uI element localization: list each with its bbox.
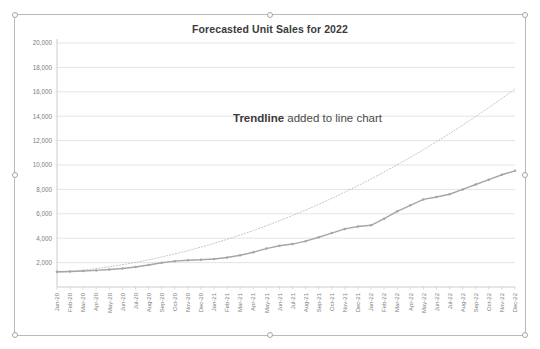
svg-text:Apr-22: Apr-22 bbox=[408, 292, 414, 311]
resize-handle-top-left-icon[interactable] bbox=[12, 12, 18, 18]
trendline-annotation: Trendline added to line chart bbox=[233, 112, 382, 124]
y-axis-tick-labels: 2,0004,0006,0008,00010,00012,00014,00016… bbox=[33, 39, 53, 266]
resize-handle-bottom-left-icon[interactable] bbox=[12, 332, 18, 338]
svg-text:10,000: 10,000 bbox=[33, 161, 53, 168]
svg-text:May-22: May-22 bbox=[421, 292, 427, 313]
annotation-strong-text: Trendline bbox=[233, 112, 284, 124]
svg-text:Sep-20: Sep-20 bbox=[159, 292, 165, 312]
svg-text:16,000: 16,000 bbox=[33, 88, 53, 95]
svg-text:Oct-20: Oct-20 bbox=[172, 292, 178, 311]
svg-text:18,000: 18,000 bbox=[33, 64, 53, 71]
svg-text:Aug-20: Aug-20 bbox=[146, 292, 152, 312]
svg-text:Dec-22: Dec-22 bbox=[512, 292, 518, 312]
svg-text:Apr-20: Apr-20 bbox=[93, 292, 99, 311]
svg-text:Feb-20: Feb-20 bbox=[67, 292, 73, 312]
svg-text:Mar-22: Mar-22 bbox=[394, 292, 400, 312]
plot-area[interactable]: 2,0004,0006,0008,00010,00012,00014,00016… bbox=[15, 15, 525, 335]
chart-object[interactable]: Forecasted Unit Sales for 2022 2,0004,00… bbox=[14, 14, 526, 336]
svg-text:Feb-22: Feb-22 bbox=[381, 292, 387, 312]
resize-handle-bottom-right-icon[interactable] bbox=[522, 332, 528, 338]
svg-text:May-21: May-21 bbox=[264, 292, 270, 313]
svg-text:Jul-22: Jul-22 bbox=[447, 292, 453, 309]
svg-text:Jul-20: Jul-20 bbox=[133, 292, 139, 309]
svg-text:Apr-21: Apr-21 bbox=[250, 292, 256, 311]
svg-text:Feb-21: Feb-21 bbox=[224, 292, 230, 312]
svg-text:May-20: May-20 bbox=[107, 292, 113, 313]
svg-text:2,000: 2,000 bbox=[36, 259, 52, 266]
resize-handle-top-center-icon[interactable] bbox=[267, 12, 273, 18]
gridlines bbox=[57, 43, 515, 263]
svg-text:Sep-22: Sep-22 bbox=[473, 292, 479, 312]
svg-text:12,000: 12,000 bbox=[33, 137, 53, 144]
svg-text:20,000: 20,000 bbox=[33, 39, 53, 46]
svg-text:Nov-20: Nov-20 bbox=[185, 292, 191, 312]
x-axis-tick-labels: Jan-20Feb-20Mar-20Apr-20May-20Jun-20Jul-… bbox=[54, 287, 518, 313]
svg-text:Nov-21: Nov-21 bbox=[342, 292, 348, 312]
svg-text:Mar-21: Mar-21 bbox=[237, 292, 243, 312]
resize-handle-right-middle-icon[interactable] bbox=[522, 172, 528, 178]
svg-text:Jun-20: Jun-20 bbox=[120, 292, 126, 311]
svg-text:Jul-21: Jul-21 bbox=[290, 292, 296, 309]
resize-handle-top-right-icon[interactable] bbox=[522, 12, 528, 18]
svg-text:Jun-22: Jun-22 bbox=[434, 292, 440, 311]
svg-text:Nov-22: Nov-22 bbox=[499, 292, 505, 312]
svg-text:Dec-21: Dec-21 bbox=[355, 292, 361, 312]
svg-text:Dec-20: Dec-20 bbox=[198, 292, 204, 312]
svg-text:8,000: 8,000 bbox=[36, 186, 52, 193]
svg-text:Jan-22: Jan-22 bbox=[368, 292, 374, 311]
svg-text:Oct-21: Oct-21 bbox=[329, 292, 335, 311]
chart-canvas: 2,0004,0006,0008,00010,00012,00014,00016… bbox=[15, 15, 527, 337]
svg-text:Jan-20: Jan-20 bbox=[54, 292, 60, 311]
svg-text:Mar-20: Mar-20 bbox=[80, 292, 86, 312]
svg-text:Jun-21: Jun-21 bbox=[277, 292, 283, 311]
svg-text:Aug-22: Aug-22 bbox=[460, 292, 466, 312]
svg-text:4,000: 4,000 bbox=[36, 235, 52, 242]
resize-handle-bottom-center-icon[interactable] bbox=[267, 332, 273, 338]
data-series-line[interactable] bbox=[57, 171, 515, 272]
svg-text:14,000: 14,000 bbox=[33, 113, 53, 120]
svg-text:Aug-21: Aug-21 bbox=[303, 292, 309, 312]
svg-text:Sep-21: Sep-21 bbox=[316, 292, 322, 312]
svg-text:Jan-21: Jan-21 bbox=[211, 292, 217, 311]
annotation-rest-text: added to line chart bbox=[284, 112, 382, 124]
resize-handle-left-middle-icon[interactable] bbox=[12, 172, 18, 178]
svg-text:Oct-22: Oct-22 bbox=[486, 292, 492, 311]
svg-text:6,000: 6,000 bbox=[36, 210, 52, 217]
data-series-markers[interactable] bbox=[56, 170, 517, 273]
